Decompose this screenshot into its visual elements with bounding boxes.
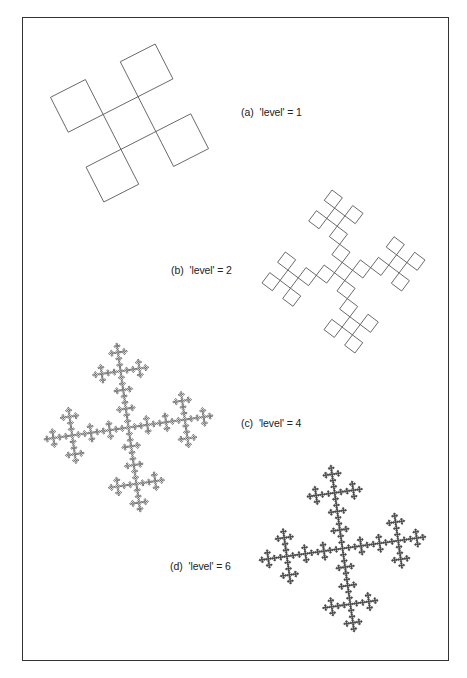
- panel-tag: (c): [241, 417, 253, 429]
- koch-curve-level-4: [44, 343, 213, 512]
- panel-tag: (b): [171, 264, 184, 276]
- panel-caption: 'level' = 6: [189, 560, 231, 572]
- panel-label-a: (a)'level' = 1: [241, 106, 302, 118]
- panel-caption: 'level' = 4: [259, 417, 301, 429]
- panel-caption: 'level' = 1: [260, 106, 302, 118]
- panel-label-d: (d)'level' = 6: [170, 560, 231, 572]
- panel-tag: (d): [170, 560, 183, 572]
- panel-tag: (a): [241, 106, 254, 118]
- panel-label-b: (b)'level' = 2: [171, 264, 232, 276]
- koch-curve-level-1: [51, 44, 209, 202]
- fractal-canvas: [0, 0, 467, 678]
- koch-curve-level-6: [259, 465, 426, 632]
- koch-curve-level-2: [262, 190, 425, 353]
- panel-label-c: (c)'level' = 4: [241, 417, 301, 429]
- panel-caption: 'level' = 2: [190, 264, 232, 276]
